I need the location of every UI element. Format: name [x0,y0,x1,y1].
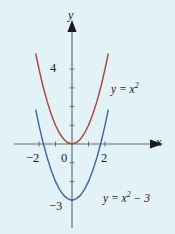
x-tick-label-2: 2 [101,152,107,165]
x-tick-label-0: 0 [61,152,67,165]
x-tick-label-negative-2: −2 [26,152,39,165]
y-axis-label: y [68,9,74,22]
curve-label-red: y = x2 [111,84,139,96]
parabola-comparison-figure: 4 −2 0 2 −3 y x y = x2 y = x2 − 3 [0,0,175,234]
curve-label-red-text: y = x [111,83,135,95]
curve-label-blue-text-a: y = x [103,192,127,204]
x-axis-label: x [156,136,162,149]
curve-label-blue: y = x2 − 3 [103,193,150,205]
y-tick-label-4: 4 [50,62,56,75]
curve-label-red-exponent: 2 [135,81,139,90]
curve-label-blue-text-b: − 3 [131,192,150,204]
y-tick-label-negative-3: −3 [49,200,62,213]
